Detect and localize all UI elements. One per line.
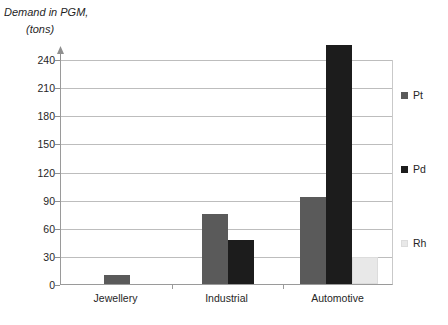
y-axis-tick-label: 90: [3, 195, 55, 207]
y-axis-tick-labels: 0306090120150180210240: [0, 60, 55, 285]
bar-pt-jewellery: [104, 275, 130, 284]
bar-pd-automotive: [326, 45, 352, 284]
y-axis-tick-label: 120: [3, 167, 55, 179]
legend-swatch-pt-icon: [401, 92, 408, 99]
y-axis-tick-label: 240: [3, 54, 55, 66]
bar-group: [283, 60, 394, 284]
legend-entry-pd[interactable]: Pd: [401, 164, 426, 174]
x-axis-label-automotive: Automotive: [311, 292, 364, 304]
category-separator: [283, 284, 284, 289]
chart-legend: PtPdRh: [401, 60, 447, 240]
x-axis-label-industrial: Industrial: [205, 292, 248, 304]
chart-title-line-2: (tons): [4, 21, 88, 38]
legend-swatch-rh-icon: [401, 240, 408, 247]
y-axis-tick-label: 60: [3, 223, 55, 235]
chart-title-line-1: Demand in PGM,: [4, 6, 88, 18]
legend-entry-pt[interactable]: Pt: [401, 90, 423, 100]
legend-entry-rh[interactable]: Rh: [401, 238, 426, 248]
x-axis-label-jewellery: Jewellery: [94, 292, 138, 304]
bar-pt-automotive: [300, 197, 326, 284]
y-axis-tick-label: 150: [3, 138, 55, 150]
chart-figure: Demand in PGM, (tons) 030609012015018021…: [0, 0, 448, 325]
y-axis-tick-label: 210: [3, 82, 55, 94]
legend-label-pd: Pd: [413, 164, 426, 174]
legend-label-rh: Rh: [413, 238, 426, 248]
bar-rh-automotive: [352, 257, 378, 284]
bar-pt-industrial: [202, 214, 228, 284]
bars-layer: [61, 60, 392, 284]
plot-area: [60, 60, 393, 285]
legend-swatch-pd-icon: [401, 166, 408, 173]
legend-label-pt: Pt: [413, 90, 423, 100]
x-axis-category-labels: JewelleryIndustrialAutomotive: [60, 292, 393, 312]
y-axis-tick-mark: [55, 285, 60, 286]
bar-pd-industrial: [228, 240, 254, 284]
chart-title: Demand in PGM, (tons): [4, 4, 88, 38]
bar-group: [61, 60, 172, 284]
y-axis-arrow-icon: [56, 46, 65, 61]
y-axis-tick-label: 0: [3, 279, 55, 291]
category-separator: [172, 284, 173, 289]
y-axis-tick-label: 30: [3, 251, 55, 263]
bar-group: [172, 60, 283, 284]
y-axis-tick-label: 180: [3, 110, 55, 122]
